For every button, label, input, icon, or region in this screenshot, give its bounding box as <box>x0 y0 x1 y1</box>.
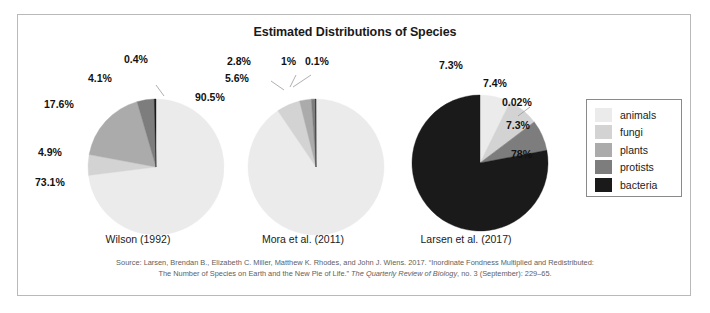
legend-label-bacteria: bacteria <box>620 179 657 191</box>
legend-swatch-fungi <box>595 125 612 139</box>
slice-label-protists: 1% <box>281 55 296 67</box>
slice-label-animals: 7.3% <box>439 59 463 71</box>
slice-label-fungi: 7.4% <box>483 77 507 89</box>
leader-line-bacteria-mora <box>293 75 311 87</box>
legend-label-animals: animals <box>620 109 656 121</box>
legend-swatch-plants <box>595 143 612 157</box>
slice-label-animals: 90.5% <box>195 91 225 103</box>
leader-line-plants-mora <box>271 81 284 90</box>
pie-slices-larsen <box>412 95 548 231</box>
pie-chart-larsen: 7.3% 7.4% 0.02% 7.3% 78% Larsen et al. (… <box>366 15 566 255</box>
legend-swatch-bacteria <box>595 178 612 192</box>
legend-swatch-animals <box>595 108 612 122</box>
legend-label-plants: plants <box>620 144 648 156</box>
slice-label-plants: 17.6% <box>44 98 74 110</box>
source-line-2-part-c: , no. 3 (September): 229–65. <box>457 269 552 278</box>
legend-item-fungi[interactable]: fungi <box>595 124 681 141</box>
legend-item-animals[interactable]: animals <box>595 106 681 123</box>
source-citation: Source: Larsen, Brendan B., Elizabeth C.… <box>18 257 692 279</box>
figure-panel: Estimated Distributions of Species 0.4% … <box>17 14 691 296</box>
slice-label-bacteria: 0.4% <box>124 53 148 65</box>
slice-label-plants: 2.8% <box>227 55 251 67</box>
slice-label-plants: 0.02% <box>502 96 532 108</box>
source-line-2: The Number of Species on Earth and the N… <box>18 268 692 279</box>
source-line-2-part-a: The Number of Species on Earth and the N… <box>158 269 351 278</box>
slice-label-bacteria: 0.1% <box>305 55 329 67</box>
source-line-1: Source: Larsen, Brendan B., Elizabeth C.… <box>18 257 692 268</box>
legend-label-protists: protists <box>620 161 654 173</box>
legend: animals fungi plants protists bacteria <box>586 99 682 197</box>
slice-label-protists: 7.3% <box>506 119 530 131</box>
slice-label-animals: 73.1% <box>35 176 65 188</box>
slice-label-protists: 4.1% <box>88 72 112 84</box>
legend-label-fungi: fungi <box>620 126 643 138</box>
pie-svg-larsen <box>366 15 566 255</box>
leader-line-bacteria-wilson <box>156 85 164 96</box>
legend-swatch-protists <box>595 160 612 174</box>
legend-item-protists[interactable]: protists <box>595 159 681 176</box>
pie-caption-larsen: Larsen et al. (2017) <box>366 233 566 245</box>
slice-label-bacteria: 78% <box>511 148 532 160</box>
slice-label-fungi: 5.6% <box>225 72 249 84</box>
pie-slices-mora <box>248 99 384 235</box>
source-journal-title: The Quarterly Review of Biology <box>351 269 457 278</box>
legend-item-bacteria[interactable]: bacteria <box>595 176 681 193</box>
slice-label-fungi: 4.9% <box>38 146 62 158</box>
legend-item-plants[interactable]: plants <box>595 141 681 158</box>
